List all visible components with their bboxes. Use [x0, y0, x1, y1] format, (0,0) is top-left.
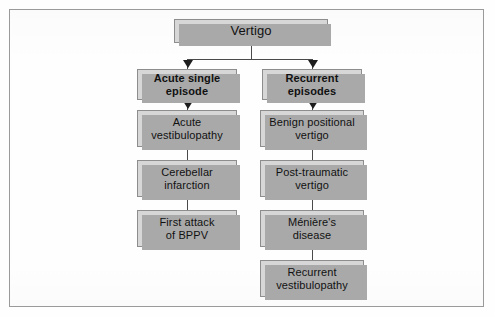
node-vertigo[interactable]: Vertigo [174, 19, 328, 43]
node-menieres-disease-label: Ménière's disease [285, 216, 339, 241]
arrowhead-branch-left [183, 60, 193, 68]
node-first-attack-of-bppv[interactable]: First attack of BPPV [137, 210, 237, 247]
figure-page: Vertigo Acute single episode Recurrent e… [0, 0, 495, 317]
node-acute-single-episode[interactable]: Acute single episode [137, 69, 237, 100]
node-menieres-disease[interactable]: Ménière's disease [260, 210, 364, 247]
node-recurrent-episodes[interactable]: Recurrent episodes [262, 69, 362, 100]
connector-root-bar [187, 59, 313, 60]
node-recurrent-vestibulopathy[interactable]: Recurrent vestibulopathy [260, 260, 364, 297]
paper-texture-overlay [10, 10, 483, 306]
node-cerebellar-infarction[interactable]: Cerebellar infarction [137, 160, 237, 197]
node-vertigo-label: Vertigo [227, 24, 274, 39]
node-first-attack-of-bppv-label: First attack of BPPV [157, 216, 218, 241]
node-cerebellar-infarction-label: Cerebellar infarction [158, 166, 216, 191]
node-recurrent-vestibulopathy-label: Recurrent vestibulopathy [273, 266, 351, 291]
node-recurrent-episodes-label: Recurrent episodes [283, 72, 342, 97]
node-benign-positional-vertigo-label: Benign positional vertigo [266, 116, 357, 141]
node-post-traumatic-vertigo[interactable]: Post-traumatic vertigo [260, 160, 364, 197]
node-acute-vestibulopathy-label: Acute vestibulopathy [148, 116, 226, 141]
figure-frame: Vertigo Acute single episode Recurrent e… [9, 9, 484, 307]
node-benign-positional-vertigo[interactable]: Benign positional vertigo [260, 110, 364, 147]
arrowhead-branch-right [308, 60, 318, 68]
node-acute-vestibulopathy[interactable]: Acute vestibulopathy [137, 110, 237, 147]
node-acute-single-episode-label: Acute single episode [151, 72, 224, 97]
node-post-traumatic-vertigo-label: Post-traumatic vertigo [273, 166, 351, 191]
